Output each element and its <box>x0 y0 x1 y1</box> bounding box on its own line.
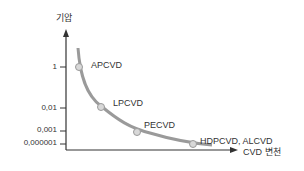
point-apcvd <box>76 64 83 71</box>
y-axis-arrow-icon <box>63 29 69 37</box>
label-pecvd: PECVD <box>144 120 175 130</box>
y-tick-4: 0,000001 <box>2 138 57 147</box>
y-tick-1: 1 <box>2 62 57 71</box>
y-tick-2: 0,01 <box>2 103 57 112</box>
point-lpcvd <box>98 104 105 111</box>
x-axis-label: CVD 변천 <box>243 145 281 158</box>
label-lpcvd: LPCVD <box>113 98 143 108</box>
label-apcvd: APCVD <box>91 60 122 70</box>
y-axis-label: 기압 <box>56 11 72 24</box>
label-hdpcvd-alcvd: HDPCVD, ALCVD <box>200 136 273 146</box>
point-pecvd <box>134 129 141 136</box>
x-axis-arrow-icon <box>230 147 238 153</box>
point-hdpcvd <box>190 141 197 148</box>
y-tick-3: 0,001 <box>2 125 57 134</box>
